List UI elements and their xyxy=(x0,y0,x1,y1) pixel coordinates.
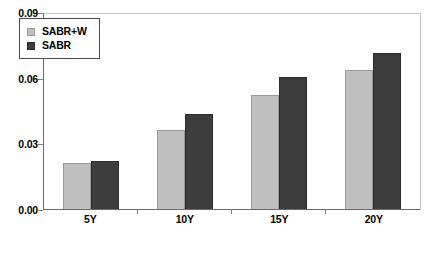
chart-legend: SABR+W SABR xyxy=(19,18,100,59)
x-axis-tick-label: 20Y xyxy=(327,214,422,225)
bar xyxy=(63,163,91,209)
bar-group xyxy=(138,14,232,209)
bar xyxy=(157,130,185,209)
bar xyxy=(279,77,307,209)
legend-swatch-icon xyxy=(27,42,35,50)
bar-groups xyxy=(44,14,420,209)
bar xyxy=(91,161,119,209)
x-axis-tick-label: 5Y xyxy=(43,214,138,225)
y-axis-tick-mark xyxy=(38,210,43,211)
bar xyxy=(373,53,401,210)
plot-area xyxy=(43,13,421,210)
legend-swatch-icon xyxy=(27,28,35,36)
y-axis-tick-label: 0.00 xyxy=(2,205,38,216)
legend-item-sabr-w: SABR+W xyxy=(27,25,87,38)
bar xyxy=(185,114,213,209)
bar-group xyxy=(326,14,420,209)
bar-chart: 0.000.030.060.09 5Y10Y15Y20Y SABR+W SABR xyxy=(0,0,430,255)
legend-label: SABR+W xyxy=(42,26,87,37)
bar xyxy=(251,95,279,209)
y-axis-tick-label: 0.03 xyxy=(2,139,38,150)
bar-group xyxy=(232,14,326,209)
legend-label: SABR xyxy=(42,40,71,51)
x-axis-tick-label: 15Y xyxy=(232,214,327,225)
legend-item-sabr: SABR xyxy=(27,39,87,52)
y-axis-tick-label: 0.09 xyxy=(2,8,38,19)
x-axis-tick-label: 10Y xyxy=(138,214,233,225)
x-axis-labels: 5Y10Y15Y20Y xyxy=(43,214,421,225)
y-axis-tick-label: 0.06 xyxy=(2,74,38,85)
bar xyxy=(345,70,373,209)
